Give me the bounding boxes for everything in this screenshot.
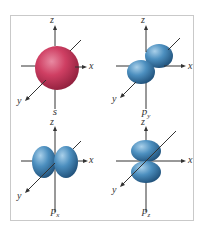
panel-px-orbital: z x y px — [11, 119, 103, 222]
figure-frame: z x y s — [10, 15, 194, 221]
axis-label-z: z — [50, 117, 54, 127]
panel-pz-orbital: z x y pz — [106, 119, 198, 222]
axis-label-x: x — [188, 155, 192, 165]
px-lobe-right — [54, 146, 78, 178]
axis-label-y: y — [112, 185, 116, 195]
axis-label-y: y — [17, 96, 21, 106]
axis-label-z: z — [50, 15, 54, 25]
panel-py-orbital: z x y py — [106, 16, 198, 119]
py-orbital-diagram — [106, 16, 198, 119]
axis-label-x: x — [89, 155, 93, 165]
orbital-label-pz: pz — [131, 205, 161, 219]
s-sphere — [35, 46, 79, 90]
axis-label-z: z — [141, 15, 145, 25]
orbital-label-px: px — [40, 205, 70, 219]
panel-s-orbital: z x y s — [11, 16, 103, 119]
px-lobe-left — [32, 146, 56, 178]
axis-label-y: y — [17, 191, 21, 201]
axis-label-y: y — [112, 94, 116, 104]
axis-label-x: x — [89, 61, 93, 71]
axis-label-z: z — [141, 117, 145, 127]
axis-label-x: x — [188, 61, 192, 71]
py-lobe-front — [127, 60, 155, 84]
